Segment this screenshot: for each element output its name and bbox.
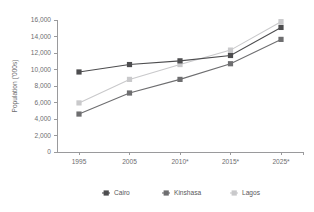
data-point-marker (278, 37, 283, 42)
y-axis-title: Population ('000s) (11, 60, 19, 113)
series-line-kinshasa (79, 39, 281, 114)
chart-container: 02,0004,0006,0008,00010,00012,00014,0001… (0, 0, 314, 212)
axes (57, 20, 303, 152)
y-tick-label: 4,000 (34, 115, 51, 122)
chart-legend: CairoKinshasaLagos (102, 189, 261, 197)
y-tick-label: 0 (47, 148, 51, 155)
data-point-marker (228, 61, 233, 66)
y-tick-label: 2,000 (34, 132, 51, 139)
data-point-marker (127, 62, 132, 67)
x-tick-label: 2010* (171, 158, 189, 165)
x-tick-label: 2015* (222, 158, 240, 165)
data-point-marker (127, 77, 132, 82)
legend-label-lagos: Lagos (242, 189, 261, 197)
data-point-marker (76, 111, 81, 116)
y-tick-label: 16,000 (31, 16, 52, 23)
legend-marker-cairo (104, 190, 109, 195)
data-point-marker (127, 90, 132, 95)
data-point-marker (177, 77, 182, 82)
line-chart: 02,0004,0006,0008,00010,00012,00014,0001… (0, 0, 314, 212)
y-axis-ticks: 02,0004,0006,0008,00010,00012,00014,0001… (31, 16, 57, 155)
data-point-marker (278, 19, 283, 24)
legend-label-kinshasa: Kinshasa (174, 189, 201, 196)
legend-marker-lagos (232, 190, 237, 195)
y-tick-label: 12,000 (31, 49, 52, 56)
y-tick-label: 14,000 (31, 33, 52, 40)
data-point-marker (76, 69, 81, 74)
data-point-marker (278, 25, 283, 30)
y-tick-label: 6,000 (34, 99, 51, 106)
x-tick-label: 2025* (272, 158, 290, 165)
legend-marker-kinshasa (164, 190, 169, 195)
data-point-marker (76, 100, 81, 105)
x-tick-label: 1995 (72, 158, 87, 165)
data-point-marker (177, 58, 182, 63)
data-series-group (76, 19, 283, 117)
x-axis-ticks: 199520052010*2015*2025* (72, 152, 303, 165)
data-point-marker (228, 48, 233, 53)
legend-label-cairo: Cairo (114, 189, 130, 196)
x-tick-label: 2005 (122, 158, 137, 165)
data-point-marker (228, 53, 233, 58)
y-tick-label: 8,000 (34, 82, 51, 89)
y-tick-label: 10,000 (31, 66, 52, 73)
